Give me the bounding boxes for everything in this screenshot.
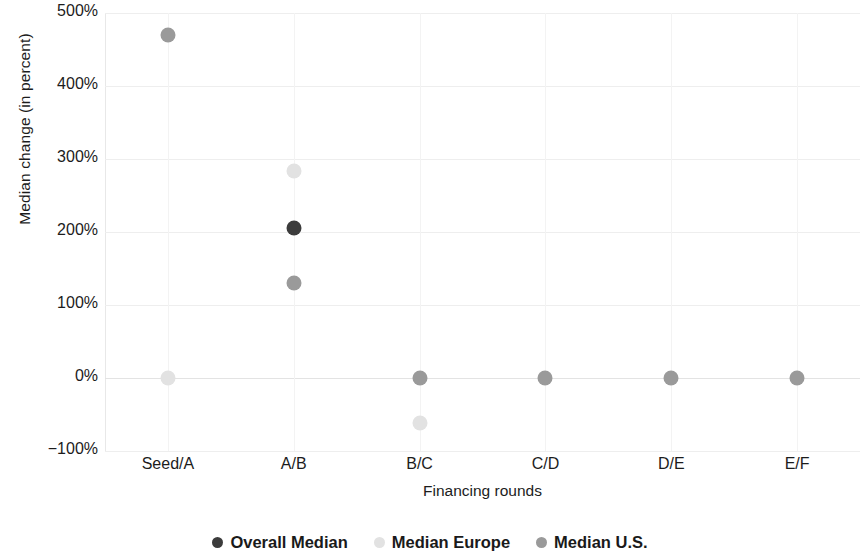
y-axis-tick-labels: 500%400%300%200%100%0%−100% [0, 0, 98, 460]
data-point [286, 221, 301, 236]
legend-item-label: Median U.S. [554, 533, 648, 552]
y-axis-tick-label: 500% [6, 2, 98, 20]
data-point [538, 371, 553, 386]
chart-legend: Overall MedianMedian EuropeMedian U.S. [0, 530, 860, 555]
x-axis-tick-labels: Seed/AA/BB/CC/DD/EE/F [105, 455, 860, 479]
x-axis-tick-label: B/C [406, 455, 433, 473]
gridline-horizontal [105, 378, 860, 379]
legend-item[interactable]: Median U.S. [536, 533, 648, 552]
x-axis-tick-label: D/E [658, 455, 685, 473]
x-axis-tick-label: E/F [785, 455, 810, 473]
x-axis-tick-label: C/D [532, 455, 560, 473]
x-axis-title: Financing rounds [105, 482, 860, 500]
data-point [286, 164, 301, 179]
legend-item-label: Overall Median [230, 533, 347, 552]
data-point [412, 371, 427, 386]
gridline-horizontal [105, 13, 860, 14]
gridline-horizontal [105, 451, 860, 452]
gridline-horizontal [105, 159, 860, 160]
data-point [286, 276, 301, 291]
legend-item[interactable]: Median Europe [374, 533, 510, 552]
gridline-horizontal [105, 305, 860, 306]
x-axis-tick-label: A/B [281, 455, 307, 473]
data-point [412, 416, 427, 431]
x-axis-tick-label: Seed/A [142, 455, 194, 473]
data-point [790, 371, 805, 386]
y-axis-tick-label: 0% [6, 367, 98, 385]
legend-dot-icon [374, 537, 385, 548]
legend-dot-icon [536, 537, 547, 548]
y-axis-tick-label: 100% [6, 294, 98, 312]
gridline-horizontal [105, 86, 860, 87]
data-point [160, 371, 175, 386]
legend-item[interactable]: Overall Median [212, 533, 347, 552]
gridline-horizontal [105, 232, 860, 233]
plot-area [105, 13, 860, 451]
legend-dot-icon [212, 537, 223, 548]
scatter-chart: Median change (in percent) 500%400%300%2… [0, 0, 860, 555]
data-point [160, 27, 175, 42]
y-axis-tick-label: 400% [6, 75, 98, 93]
legend-item-label: Median Europe [392, 533, 510, 552]
y-axis-tick-label: 200% [6, 221, 98, 239]
y-axis-tick-label: 300% [6, 148, 98, 166]
data-point [664, 371, 679, 386]
y-axis-tick-label: −100% [6, 440, 98, 458]
